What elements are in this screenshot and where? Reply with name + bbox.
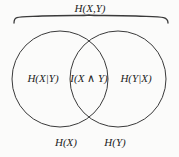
conditional-entropy-y-given-x-label: H(Y|X)	[120, 73, 151, 84]
entropy-x-label: H(X)	[55, 137, 77, 148]
entropy-y-label: H(Y)	[104, 137, 125, 148]
joint-entropy-brace	[14, 15, 168, 23]
venn-diagram-figure: H(X,Y) H(X|Y) I(X ∧ Y) H(Y|X) H(X) H(Y)	[0, 0, 179, 157]
joint-entropy-label: H(X,Y)	[75, 3, 106, 14]
mutual-information-label: I(X ∧ Y)	[70, 73, 107, 84]
conditional-entropy-x-given-y-label: H(X|Y)	[27, 73, 58, 84]
